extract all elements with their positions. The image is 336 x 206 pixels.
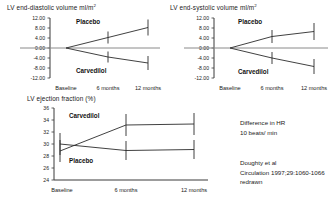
hr-note-line-1: Difference in HR xyxy=(240,118,285,128)
chart-title-lv-end-systolic-volume: LV end-systolic volume ml/m2 xyxy=(170,3,257,11)
series-carvedilol: Carvedilol xyxy=(66,48,148,74)
series-line-carvedilol xyxy=(66,48,148,63)
series-label-carvedilol: Carvedilol xyxy=(69,112,100,119)
x-tick-label: 6 months xyxy=(96,85,119,91)
y-tick-label: 30 xyxy=(43,141,49,147)
y-tick-label: 4.00 xyxy=(35,35,45,41)
x-axis-category-labels: Baseline 6 months 12 months xyxy=(51,187,207,193)
y-tick-label: 24 xyxy=(43,177,49,183)
x-tick-label: Baseline xyxy=(219,85,240,91)
series-line-carvedilol xyxy=(60,124,194,151)
chart-title-text: LV ejection fraction (%) xyxy=(27,95,96,102)
series-label-placebo: Placebo xyxy=(69,157,93,164)
series-label-carvedilol: Carvedilol xyxy=(238,68,269,75)
y-tick-label: 8.00 xyxy=(35,25,45,31)
chart-title-superscript: 2 xyxy=(254,3,257,8)
y-tick-label: -4.00 xyxy=(33,55,45,61)
x-axis-category-labels: Baseline 6 months 12 months xyxy=(55,85,161,91)
series-label-carvedilol: Carvedilol xyxy=(76,67,107,74)
chart-panel-lv-ejection-fraction: LV ejection fraction (%) 36 34 32 30 28 … xyxy=(22,92,212,206)
chart-svg-lv-ejection-fraction: 36 34 32 30 28 26 24 Carvedilol xyxy=(22,104,212,204)
series-placebo: Placebo xyxy=(230,18,314,48)
chart-panel-lv-end-diastolic-volume: LV end-diastolic volume ml/m2 12.00 8.00… xyxy=(0,0,168,100)
x-tick-label: 12 months xyxy=(301,85,327,91)
y-tick-label: 34 xyxy=(43,117,49,123)
chart-panel-lv-end-systolic-volume: LV end-systolic volume ml/m2 12.00 8.00 … xyxy=(168,0,336,100)
series-carvedilol: Carvedilol xyxy=(230,48,314,75)
y-tick-label: -12.00 xyxy=(195,75,210,81)
chart-title-superscript: 2 xyxy=(94,3,97,8)
y-tick-label: 36 xyxy=(43,105,49,111)
x-axis-category-labels: Baseline 6 months 12 months xyxy=(219,85,327,91)
hr-note-line-2: 10 beats/ min xyxy=(240,128,285,138)
chart-title-text: LV end-systolic volume ml/m xyxy=(170,4,254,11)
series-line-placebo xyxy=(60,144,194,151)
series-line-placebo xyxy=(66,28,148,49)
y-tick-label: -4.00 xyxy=(197,55,209,61)
x-tick-label: 12 months xyxy=(181,187,207,193)
y-tick-label: 4.00 xyxy=(199,35,209,41)
figure-lv-remodelling-charts: LV end-diastolic volume ml/m2 12.00 8.00… xyxy=(0,0,336,206)
x-tick-label: 6 months xyxy=(114,187,137,193)
x-tick-label: Baseline xyxy=(51,187,72,193)
series-label-placebo: Placebo xyxy=(238,18,262,25)
series-placebo: Placebo xyxy=(66,18,148,48)
citation-line-3: redrawn xyxy=(240,177,325,187)
chart-svg-lv-end-systolic-volume: 12.00 8.00 4.00 0.00 -4.00 -8.00 -12.00 … xyxy=(168,14,336,96)
y-tick-label: -12.00 xyxy=(31,75,46,81)
y-axis-ticks: 36 34 32 30 28 26 24 xyxy=(43,105,54,183)
x-tick-label: Baseline xyxy=(55,85,76,91)
y-tick-label: -8.00 xyxy=(33,65,45,71)
annotation-hr-difference: Difference in HR 10 beats/ min xyxy=(240,118,285,137)
citation-line-2: Circulation 1997;29:1060-1066 xyxy=(240,168,325,178)
y-tick-label: 26 xyxy=(43,165,49,171)
chart-title-lv-end-diastolic-volume: LV end-diastolic volume ml/m2 xyxy=(7,3,96,11)
series-carvedilol: Carvedilol xyxy=(60,112,194,162)
chart-title-text: LV end-diastolic volume ml/m xyxy=(7,4,94,11)
annotation-citation: Doughty et al Circulation 1997;29:1060-1… xyxy=(240,158,325,187)
series-placebo: Placebo xyxy=(60,133,194,164)
citation-line-1: Doughty et al xyxy=(240,158,325,168)
series-label-placebo: Placebo xyxy=(76,18,100,25)
x-tick-label: 6 months xyxy=(260,85,283,91)
y-tick-label: 12.00 xyxy=(196,15,209,21)
x-tick-label: 12 months xyxy=(135,85,161,91)
chart-title-lv-ejection-fraction: LV ejection fraction (%) xyxy=(27,94,96,102)
y-tick-label: 8.00 xyxy=(199,25,209,31)
y-tick-label: 32 xyxy=(43,129,49,135)
y-tick-label: 28 xyxy=(43,153,49,159)
y-tick-label: 12.00 xyxy=(32,15,45,21)
y-tick-label: -8.00 xyxy=(197,65,209,71)
chart-svg-lv-end-diastolic-volume: 12.00 8.00 4.00 0.00 -4.00 -8.00 -12.00 xyxy=(0,14,168,96)
